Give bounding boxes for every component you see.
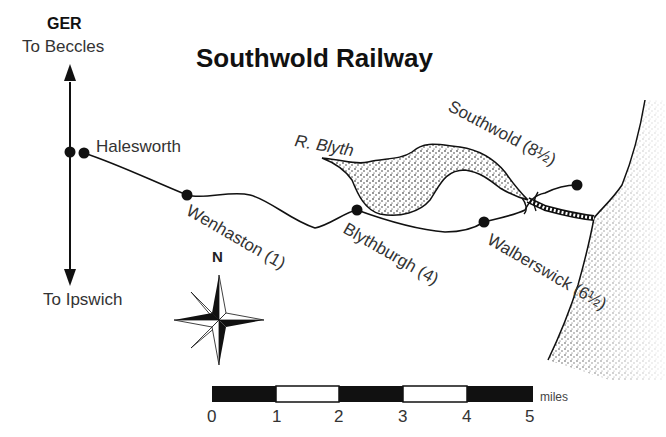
ger-main-line bbox=[64, 64, 76, 286]
arrow-up-icon bbox=[64, 64, 76, 81]
coastline bbox=[548, 100, 666, 380]
to-ipswich-label: To Ipswich bbox=[43, 290, 122, 309]
railway-map: Southwold Railway GER To Beccles To Ipsw… bbox=[0, 0, 666, 437]
river-label: R. Blyth bbox=[293, 131, 355, 160]
map-title: Southwold Railway bbox=[196, 43, 433, 73]
scale-unit-label: miles bbox=[540, 390, 568, 404]
scale-tick-3: 3 bbox=[398, 407, 407, 426]
scale-tick-2: 2 bbox=[334, 407, 343, 426]
station-dot-wenhaston bbox=[182, 190, 193, 201]
ger-label: GER bbox=[47, 15, 82, 32]
compass-north-label: N bbox=[212, 248, 223, 265]
station-dot-blythburgh bbox=[352, 205, 363, 216]
station-dot-halesworth bbox=[79, 148, 90, 159]
scale-tick-5: 5 bbox=[525, 407, 534, 426]
scale-tick-0: 0 bbox=[207, 407, 216, 426]
station-dot-halesworth-ger bbox=[65, 147, 76, 158]
compass-rose-icon bbox=[174, 275, 264, 365]
station-label-wenhaston: Wenhaston (1) bbox=[183, 201, 289, 273]
to-beccles-label: To Beccles bbox=[22, 37, 104, 56]
station-dot-southwold bbox=[572, 180, 583, 191]
arrow-down-icon bbox=[64, 269, 76, 286]
station-label-halesworth: Halesworth bbox=[96, 137, 181, 156]
scale-tick-4: 4 bbox=[462, 407, 471, 426]
scale-bar bbox=[212, 386, 533, 402]
scale-tick-1: 1 bbox=[272, 407, 281, 426]
railway-line bbox=[84, 153, 577, 232]
station-dot-walberswick bbox=[479, 217, 490, 228]
